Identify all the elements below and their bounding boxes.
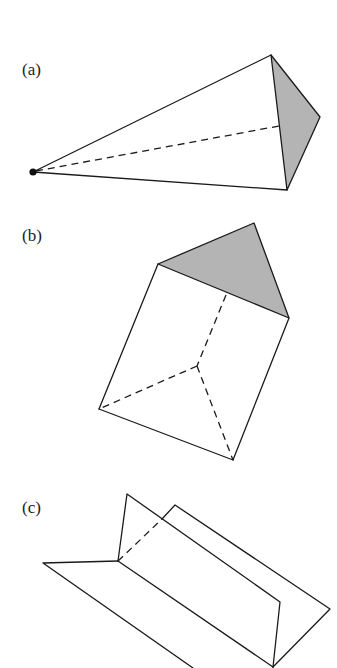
panel-b: (b) bbox=[22, 223, 289, 460]
upright-plane-edge bbox=[118, 494, 280, 667]
panel-a-label: (a) bbox=[22, 60, 41, 79]
panel-b-label: (b) bbox=[22, 226, 42, 245]
prism-shaded-end bbox=[158, 223, 289, 318]
pyramid-hidden-edge bbox=[36, 126, 279, 171]
prism-bottom-edge bbox=[99, 409, 233, 460]
prism-hidden-base-edge-right bbox=[197, 366, 233, 460]
back-plane-edge bbox=[162, 505, 330, 667]
panel-c: (c) bbox=[22, 494, 330, 668]
prism-hidden-long-edge bbox=[197, 295, 226, 366]
panel-a: (a) bbox=[22, 55, 320, 190]
horizontal-plane-edge bbox=[43, 561, 193, 668]
pyramid-top-edge bbox=[33, 55, 271, 172]
prism-right-edge bbox=[233, 318, 289, 460]
pyramid-shaded-base bbox=[271, 55, 320, 190]
pyramid-bottom-edge bbox=[33, 172, 287, 190]
apex-point bbox=[29, 168, 36, 175]
geometry-figure: (a) (b) (c) bbox=[0, 0, 337, 668]
fold-line bbox=[118, 561, 273, 667]
panel-c-label: (c) bbox=[22, 498, 41, 517]
back-plane-hidden-edge bbox=[118, 519, 162, 561]
